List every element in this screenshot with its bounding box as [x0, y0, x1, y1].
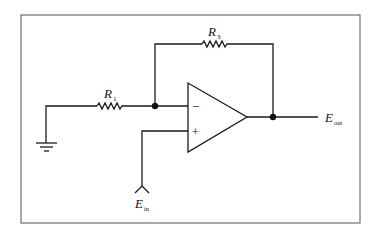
input-terminal-icon [135, 186, 149, 193]
diagram-border [21, 15, 360, 223]
resistor-r3 [202, 41, 229, 47]
resistor-r1 [97, 103, 124, 109]
noninverting-input-wire [142, 131, 188, 186]
opamp-triangle [188, 83, 247, 152]
label-eout: E out [324, 110, 343, 126]
label-r3: R 3 [207, 24, 221, 41]
ground-icon [36, 143, 57, 151]
junction-dot-output [270, 114, 276, 120]
feedback-wire-right [229, 44, 273, 117]
svg-text:out: out [334, 119, 343, 126]
circuit-diagram: − + R 3 R 1 E out E in [0, 0, 375, 235]
svg-text:in: in [144, 205, 150, 212]
feedback-wire-left [155, 44, 202, 106]
svg-text:R: R [207, 24, 216, 39]
label-r1: R 1 [103, 86, 117, 103]
svg-text:R: R [103, 86, 112, 101]
junction-dot-inverting [152, 103, 158, 109]
svg-text:E: E [134, 196, 143, 211]
label-ein: E in [134, 196, 150, 212]
svg-text:3: 3 [217, 33, 221, 41]
svg-text:1: 1 [113, 95, 117, 103]
ground-wire [46, 106, 97, 143]
inverting-sign: − [192, 99, 199, 114]
svg-text:E: E [324, 110, 333, 125]
noninverting-sign: + [192, 125, 199, 139]
